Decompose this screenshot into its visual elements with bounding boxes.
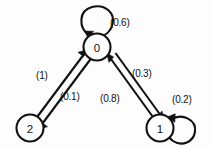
node-state-1[interactable]: 1 [147, 115, 174, 142]
edge-state2-to-state0 [35, 50, 88, 121]
diagram-canvas-svg: 0 2 1 [0, 0, 210, 149]
node-state-2[interactable]: 2 [17, 115, 44, 142]
node-label-state2: 2 [27, 123, 33, 135]
edge-label-state0-to-state2: (0.1) [60, 91, 80, 102]
edge-label-state0-to-state1: (0.3) [132, 68, 152, 79]
edge-state0-to-state1 [116, 53, 165, 120]
node-label-state1: 1 [157, 123, 163, 135]
edge-label-state1-to-state0: (0.8) [100, 93, 120, 104]
edge-shaft-2-to-0 [35, 54, 85, 121]
edge-label-self-loop-state1: (0.2) [172, 94, 192, 105]
edge-state1-to-state0 [107, 53, 156, 120]
node-label-state0: 0 [94, 42, 100, 54]
state-transition-diagram: 0 2 1 (0.6) (1) (0.1) (0.3) (0.8) (0.2) [0, 0, 210, 149]
edge-shaft-0-to-1 [116, 53, 162, 117]
node-state-0[interactable]: 0 [84, 34, 111, 61]
edge-label-state2-to-state0: (1) [36, 70, 48, 81]
edge-label-self-loop-state0: (0.6) [110, 17, 130, 28]
edge-shaft-1-to-0 [110, 57, 156, 121]
